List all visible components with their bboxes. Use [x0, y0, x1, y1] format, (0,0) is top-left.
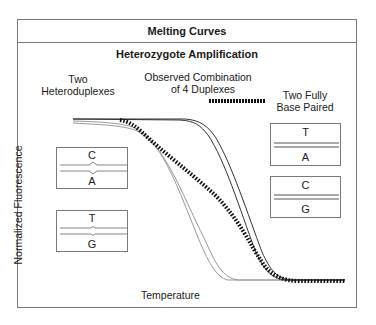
x-axis-label: Temperature — [141, 289, 200, 301]
duplex-box-homo-TA: T A — [270, 123, 341, 166]
y-axis-label: Normalized Fluorescence — [12, 145, 24, 264]
base-bottom: G — [271, 203, 340, 215]
base-bottom: A — [57, 175, 127, 187]
base-bottom: G — [57, 238, 127, 250]
base-bottom: A — [271, 151, 340, 163]
duplex-box-homo-CG: C G — [270, 176, 341, 218]
duplex-box-hetero-CA: C A — [56, 147, 128, 189]
duplex-box-hetero-TG: T G — [56, 210, 128, 252]
